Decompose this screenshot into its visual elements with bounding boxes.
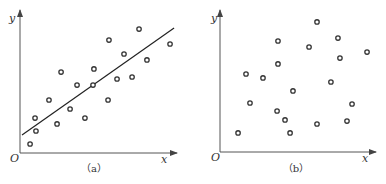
- data-point: [107, 38, 111, 42]
- data-point: [47, 98, 51, 102]
- y-axis-label: y: [210, 12, 218, 25]
- data-point: [59, 70, 63, 74]
- data-point: [365, 50, 369, 54]
- data-point: [106, 98, 110, 102]
- data-point: [345, 119, 349, 123]
- data-point: [329, 80, 333, 84]
- data-point: [130, 75, 134, 79]
- regression-line: [22, 28, 174, 135]
- data-point: [307, 45, 311, 49]
- data-point: [338, 56, 342, 60]
- data-point: [115, 77, 119, 81]
- y-axis-label: y: [8, 12, 16, 25]
- data-point: [145, 58, 149, 62]
- data-point: [55, 122, 59, 126]
- data-point: [28, 142, 32, 146]
- x-axis-label: x: [161, 153, 168, 166]
- data-point: [350, 102, 354, 106]
- data-point: [137, 27, 141, 31]
- data-point: [315, 20, 319, 24]
- data-point: [33, 116, 37, 120]
- origin-label: O: [211, 151, 220, 164]
- data-point: [276, 62, 280, 66]
- data-point: [275, 109, 279, 113]
- data-point: [336, 36, 340, 40]
- panel-b: y O x （b）: [210, 10, 376, 174]
- data-point: [276, 39, 280, 43]
- data-point: [283, 118, 287, 122]
- panel-a: y O x （a）: [8, 10, 177, 174]
- scatter-figure: y O x （a） y O x （b）: [0, 0, 386, 184]
- data-point: [91, 83, 95, 87]
- data-point: [244, 72, 248, 76]
- data-points: [236, 20, 369, 135]
- data-point: [261, 76, 265, 80]
- data-point: [315, 122, 319, 126]
- panel-caption: （b）: [283, 163, 309, 174]
- data-point: [168, 42, 172, 46]
- data-point: [248, 101, 252, 105]
- data-point: [75, 83, 79, 87]
- data-point: [288, 131, 292, 135]
- panel-caption: （a）: [81, 163, 107, 174]
- data-point: [34, 129, 38, 133]
- data-point: [291, 89, 295, 93]
- x-axis-label: x: [362, 152, 369, 165]
- data-point: [83, 116, 87, 120]
- data-point: [236, 131, 240, 135]
- data-point: [92, 67, 96, 71]
- data-point: [68, 107, 72, 111]
- data-point: [122, 52, 126, 56]
- origin-label: O: [10, 152, 19, 165]
